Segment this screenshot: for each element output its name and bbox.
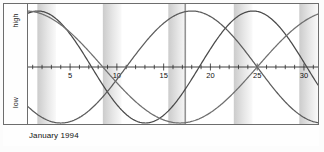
- x-axis-tick-label: 15: [159, 71, 167, 80]
- caption-strip: January 1994: [3, 124, 319, 146]
- plot-area: 51015202530: [28, 4, 318, 124]
- x-axis-tick-label: 30: [300, 71, 308, 80]
- x-axis-tick-label: 25: [253, 71, 261, 80]
- y-axis-label-high: high: [3, 17, 28, 24]
- x-axis-tick-label: 20: [206, 71, 214, 80]
- weekend-band: [168, 4, 187, 124]
- chart-canvas: 51015202530: [28, 4, 318, 124]
- y-axis-label-gutter: high low: [3, 3, 28, 124]
- y-axis-label-low: low: [3, 99, 28, 106]
- biorhythm-chart: high low 51015202530 January 1994: [0, 0, 324, 152]
- weekend-band: [234, 4, 253, 124]
- weekend-band: [37, 4, 56, 124]
- x-axis-tick-label: 5: [68, 71, 72, 80]
- x-axis-title: January 1994: [29, 131, 79, 140]
